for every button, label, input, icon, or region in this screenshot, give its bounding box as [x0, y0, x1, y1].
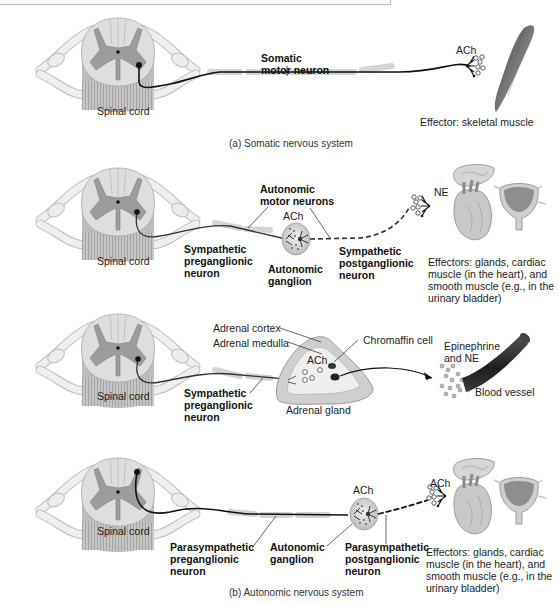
- sympathetic-ganglion-label-2: ganglion: [268, 275, 312, 287]
- somatic-neuron-label-2: motor neuron: [261, 64, 329, 76]
- adrenal-preganglionic-label-3: neuron: [184, 411, 220, 423]
- sympathetic-postganglionic-label-2: postganglionic: [339, 257, 414, 269]
- parasympathetic-preganglionic-label-2: preganglionic: [170, 553, 239, 565]
- parasympathetic-ganglion-label-2: ganglion: [270, 553, 314, 565]
- parasympathetic-effector-ach-label: ACh: [430, 477, 450, 489]
- sympathetic-preganglionic-label-2: preganglionic: [184, 255, 253, 267]
- sympathetic-effector-organs-icon: [454, 165, 547, 240]
- parasympathetic-postganglionic-label-3: neuron: [345, 565, 381, 577]
- epinephrine-label-2: and NE: [444, 352, 479, 364]
- parasympathetic-preganglionic-label-1: Parasympathetic: [170, 541, 254, 553]
- sympathetic-effectors-label-2: muscle (in the heart), and: [428, 268, 547, 280]
- skeletal-muscle-label: Effector: skeletal muscle: [420, 116, 534, 128]
- somatic-spinal-cord: [40, 18, 196, 112]
- adrenal-cortex-label: Adrenal cortex: [213, 322, 281, 334]
- sympathetic-ganglion-ach-label: ACh: [283, 210, 303, 222]
- adrenal-medulla-label: Adrenal medulla: [213, 337, 289, 349]
- sympathetic-axon-terminal: [411, 195, 430, 218]
- sympathetic-autonomic-ganglion: [282, 223, 310, 255]
- parasympathetic-effectors-label-3: smooth muscle (e.g., in the: [426, 570, 552, 582]
- caption-somatic: (a) Somatic nervous system: [229, 138, 353, 149]
- sympathetic-postganglionic-label-1: Sympathetic: [339, 245, 401, 257]
- chromaffin-cell-label: Chromaffin cell: [363, 334, 433, 346]
- sympathetic-effectors-label-1: Effectors: glands, cardiac: [428, 256, 546, 268]
- blood-vessel-label: Blood vessel: [475, 386, 535, 398]
- somatic-ach-label: ACh: [456, 44, 476, 56]
- adrenal-preganglionic-label-1: Sympathetic: [184, 387, 246, 399]
- somatic-axon-terminal: [466, 55, 485, 78]
- sympathetic-spinal-cord: [40, 168, 196, 262]
- parasympathetic-ganglion-label-1: Autonomic: [270, 541, 325, 553]
- parasympathetic-postganglionic-label-2: postganglionic: [345, 553, 420, 565]
- somatic-neuron-label-1: Somatic: [261, 52, 302, 64]
- caption-autonomic: (b) Autonomic nervous system: [229, 587, 364, 598]
- parasympathetic-effectors-label-2: muscle (in the heart), and: [426, 558, 545, 570]
- parasympathetic-postganglionic-label-1: Parasympathetic: [345, 541, 429, 553]
- parasympathetic-autonomic-ganglion: [350, 498, 378, 530]
- sympathetic-preganglionic-axon: [136, 213, 286, 239]
- adrenal-ach-label: ACh: [307, 354, 327, 366]
- sympathetic-postganglionic-axon: [310, 206, 410, 239]
- adrenal-preganglionic-label-2: preganglionic: [184, 399, 253, 411]
- parasympathetic-spinal-cord: [40, 458, 196, 552]
- sympathetic-effectors-label-4: urinary bladder): [428, 292, 502, 304]
- parasympathetic-postganglionic-axon: [378, 500, 428, 514]
- parasympathetic-preganglionic-axon: [136, 473, 348, 515]
- sympathetic-preganglionic-label-3: neuron: [184, 267, 220, 279]
- epinephrine-label-1: Epinephrine: [444, 340, 500, 352]
- adrenal-gland-label: Adrenal gland: [286, 404, 351, 416]
- somatic-spinal-cord-label: Spinal cord: [97, 105, 150, 117]
- sympathetic-ganglion-label-1: Autonomic: [268, 263, 323, 275]
- sympathetic-spinal-cord-label: Spinal cord: [97, 255, 150, 267]
- parasympathetic-effectors-label-4: urinary bladder): [426, 582, 500, 594]
- parasympathetic-preganglionic-label-3: neuron: [170, 565, 206, 577]
- sympathetic-ne-label: NE: [434, 186, 449, 198]
- parasympathetic-effectors-label-1: Effectors: glands, cardiac: [426, 546, 544, 558]
- parasympathetic-ganglion-ach-label: ACh: [353, 484, 373, 496]
- autonomic-motor-neurons-label-2: motor neurons: [260, 195, 334, 207]
- autonomic-motor-neurons-label-1: Autonomic: [260, 183, 315, 195]
- adrenal-spinal-cord-label: Spinal cord: [97, 390, 150, 402]
- parasympathetic-effector-organs-icon: [454, 459, 547, 534]
- parasympathetic-spinal-cord-label: Spinal cord: [97, 525, 150, 537]
- sympathetic-effectors-label-3: smooth muscle (e.g., in the: [428, 280, 554, 292]
- sympathetic-postganglionic-label-3: neuron: [339, 269, 375, 281]
- sympathetic-preganglionic-label-1: Sympathetic: [184, 243, 246, 255]
